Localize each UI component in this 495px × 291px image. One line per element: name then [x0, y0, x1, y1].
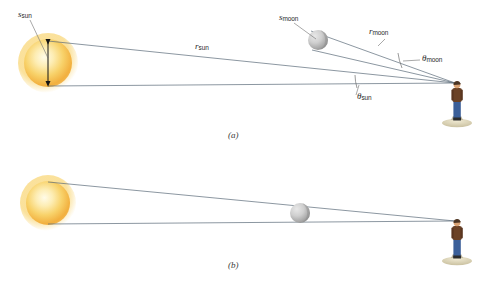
theta-moon-label: θmoon — [422, 54, 442, 64]
r-moon-leader-line — [378, 39, 385, 46]
s-moon-label: smoon — [279, 13, 298, 23]
theta-moon-leader-line — [403, 60, 420, 61]
observer-figure-b — [442, 219, 472, 265]
s-sun-label-sub: sun — [22, 12, 32, 19]
theta-sun-arc — [355, 75, 357, 88]
sun-disk-b — [26, 181, 70, 225]
panel-b-caption: (b) — [228, 260, 239, 270]
observer-legs-b — [453, 238, 460, 258]
sight-line-sun-top-a — [48, 41, 455, 83]
observer-shoes-b — [453, 256, 461, 259]
s-sun-label: ssun — [18, 10, 32, 20]
r-sun-label: rsun — [195, 42, 209, 52]
observer-legs-a — [453, 100, 460, 120]
observer-arm-left-a — [451, 90, 453, 101]
theta-sun-label-sub: sun — [361, 94, 371, 101]
observer-shoes-a — [453, 118, 461, 121]
observer-hair-b — [454, 219, 461, 223]
observer-torso-b — [452, 226, 462, 240]
r-sun-label-sub: sun — [199, 44, 209, 51]
theta-moon-label-sub: moon — [426, 56, 442, 63]
observer-arm-right-b — [461, 228, 463, 239]
observer-arm-left-b — [451, 228, 453, 239]
r-moon-label: rmoon — [369, 27, 388, 37]
observer-arm-right-a — [461, 90, 463, 101]
theta-sun-label: θsun — [357, 92, 372, 102]
panel-a-group — [18, 20, 472, 127]
s-moon-label-sub: moon — [283, 15, 299, 22]
observer-torso-a — [452, 88, 462, 102]
sight-line-bottom-b — [48, 221, 455, 224]
theta-moon-arc — [398, 53, 402, 68]
observer-figure-a — [442, 81, 472, 127]
r-moon-label-sub: moon — [373, 29, 389, 36]
observer-hair-a — [454, 81, 461, 85]
panel-a-caption: (a) — [228, 130, 239, 140]
sight-line-sun-bottom-a — [48, 83, 455, 86]
panel-b-group — [20, 175, 472, 265]
sight-line-top-b — [48, 182, 455, 221]
figure-canvas — [0, 0, 495, 291]
s-moon-leader-line — [294, 23, 316, 39]
astronomy-figure: ssun rsun smoon rmoon θmoon θsun (a) (b) — [0, 0, 495, 291]
